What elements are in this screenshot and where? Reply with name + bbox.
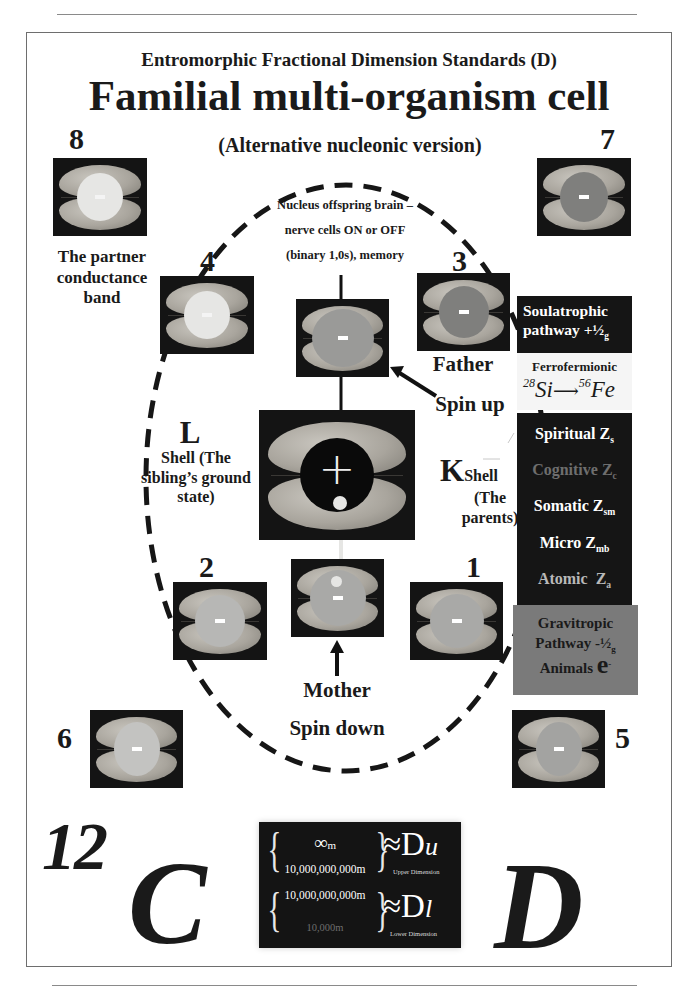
d-letter: D	[494, 845, 584, 969]
brain-position-mother	[291, 559, 384, 637]
father-label: Father	[413, 352, 513, 378]
minus-sign-icon	[338, 336, 348, 340]
brain-nucleus-top	[296, 299, 389, 377]
diagram-subtitle: Entromorphic Fractional Dimension Standa…	[26, 48, 672, 71]
brain-position-4	[160, 276, 254, 354]
position-number-3: 3	[452, 246, 467, 276]
minus-sign-icon	[215, 619, 225, 623]
lower-dimension-caption: Lower Dimension	[390, 930, 437, 937]
version-note: (Alternative nucleonic version)	[180, 133, 520, 157]
position-number-5: 5	[615, 723, 630, 753]
spin-up-label: Spin up	[420, 392, 520, 418]
nucleus-description: Nucleus offspring brain – nerve cells ON…	[250, 193, 440, 268]
plus-sign-icon: +	[259, 447, 415, 491]
brain-position-3-father	[417, 273, 510, 351]
ferrofermionic-title: Ferrofermionic	[517, 359, 632, 375]
position-number-4: 4	[200, 246, 215, 276]
z-level-somatic: Somatic Zsm	[517, 491, 632, 527]
upper-dimension-caption: Upper Dimension	[393, 868, 439, 875]
ferrofermionic-panel: Ferrofermionic 28Si⟶56Fe	[517, 353, 632, 410]
partner-band-label: The partner conductance band	[44, 247, 160, 309]
soulatrophic-pathway-panel: Soulatrophic pathway +½g	[517, 296, 632, 353]
lower-dimension-symbol: ≈Dl	[383, 890, 432, 923]
z-level-cognitive: Cognitive Zc	[517, 455, 632, 491]
arrow-right-icon: ⟶	[553, 381, 579, 401]
z-level-spiritual: Spiritual Zs	[517, 419, 632, 455]
minus-sign-icon	[459, 310, 469, 314]
z-level-micro: Micro Zmb	[517, 528, 632, 564]
minus-sign-icon	[579, 195, 589, 199]
position-number-8: 8	[69, 124, 84, 154]
mother-label: Mother	[287, 678, 387, 704]
minus-sign-icon	[333, 596, 343, 600]
lower-range-top: 10,000,000,000m	[273, 889, 377, 901]
brain-position-8	[53, 158, 147, 236]
position-number-2: 2	[199, 552, 214, 582]
position-number-6: 6	[57, 723, 72, 753]
carbon-letter: C	[128, 845, 207, 963]
gravitropic-pathway-panel: Gravitropic Pathway -½g Animals e-	[513, 605, 638, 695]
brain-nucleus-central: +	[259, 410, 415, 540]
brain-position-5	[512, 710, 605, 788]
brain-position-1	[410, 582, 503, 660]
diagram-title: Familial multi-organism cell	[26, 72, 672, 119]
electron-dot	[333, 496, 347, 510]
carbon-mass-number: 12	[42, 812, 106, 880]
z-level-atomic: Atomic Za	[517, 564, 632, 600]
si-to-fe-reaction: 28Si⟶56Fe	[523, 377, 633, 401]
dimension-box: { ∞m 10,000,000,000m } ≈Du Upper Dimensi…	[259, 822, 461, 948]
minus-sign-icon	[202, 313, 212, 317]
brain-position-7	[537, 158, 631, 236]
spin-down-label: Spin down	[272, 716, 402, 742]
upper-range-top: ∞m	[273, 832, 377, 854]
upper-dimension-symbol: ≈Du	[383, 828, 438, 861]
minus-sign-icon	[452, 619, 462, 623]
l-shell-label: Shell (The sibling’s ground state)	[136, 448, 256, 507]
electron-dot	[331, 576, 342, 587]
minus-sign-icon	[95, 195, 105, 199]
l-shell-letter: L	[160, 414, 220, 452]
lower-range-bottom: 10,000m	[273, 922, 377, 933]
minus-sign-icon	[132, 747, 142, 751]
k-shell-label: (The parents)	[460, 488, 520, 527]
brain-position-6	[90, 710, 183, 788]
brain-position-2	[173, 582, 267, 660]
z-levels-panel: Spiritual Zs Cognitive Zc Somatic Zsm Mi…	[517, 413, 632, 605]
upper-range-bottom: 10,000,000,000m	[273, 863, 377, 875]
position-number-7: 7	[600, 124, 615, 154]
minus-sign-icon	[554, 747, 564, 751]
position-number-1: 1	[466, 552, 481, 582]
